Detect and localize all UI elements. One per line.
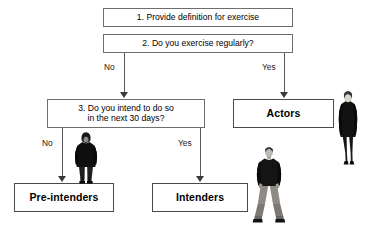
edge-label-step2-yes: Yes — [262, 62, 276, 72]
edge-step2-yes-line — [284, 53, 285, 93]
edge-step2-no-line — [124, 53, 125, 93]
edge-label-step2-no: No — [104, 62, 115, 72]
node-pre-intenders-label: Pre-intenders — [30, 191, 99, 203]
edge-step3-yes-arrowhead — [196, 176, 204, 182]
figure-intender-person — [251, 145, 287, 223]
edge-label-step3-no: No — [42, 138, 53, 148]
edge-step3-no-arrowhead — [58, 176, 66, 182]
node-step1: 1. Provide definition for exercise — [103, 8, 293, 27]
edge-step2-no-arrowhead — [120, 92, 128, 98]
edge-step2-yes-arrowhead — [280, 92, 288, 98]
node-step3: 3. Do you intend to do so in the next 30… — [47, 99, 205, 128]
figure-actor-person — [334, 90, 362, 166]
node-actors: Actors — [233, 99, 334, 128]
figure-pre-intender-person — [70, 131, 102, 185]
edge-label-step3-yes: Yes — [178, 138, 192, 148]
node-actors-label: Actors — [267, 107, 301, 119]
flowchart-diagram: 1. Provide definition for exercise 2. Do… — [0, 0, 375, 226]
node-step1-label: 1. Provide definition for exercise — [137, 13, 259, 23]
node-intenders-label: Intenders — [176, 191, 224, 203]
node-step2: 2. Do you exercise regularly? — [103, 34, 293, 53]
node-step3-label-line2: in the next 30 days? — [88, 114, 165, 124]
node-intenders: Intenders — [152, 183, 248, 212]
edge-step3-yes-line — [200, 128, 201, 176]
edge-step3-no-line — [62, 128, 63, 176]
node-pre-intenders: Pre-intenders — [14, 183, 114, 212]
node-step2-label: 2. Do you exercise regularly? — [142, 39, 253, 49]
